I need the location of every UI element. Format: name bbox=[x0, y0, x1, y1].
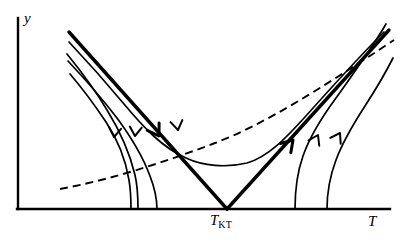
critical-temperature-label: TKT bbox=[210, 213, 232, 230]
critical-temperature-subscript: KT bbox=[218, 219, 232, 230]
y-axis-label: y bbox=[24, 11, 31, 26]
arrow-down-4 bbox=[171, 120, 184, 131]
rg-flow-diagram: y T TKT bbox=[0, 0, 402, 252]
x-axis-label: T bbox=[368, 214, 376, 229]
diagram-canvas bbox=[0, 0, 402, 252]
arrow-down-2 bbox=[129, 127, 142, 137]
separatrix-group bbox=[69, 30, 389, 209]
arrow-up-3 bbox=[330, 130, 345, 144]
flow-lines-group bbox=[67, 24, 393, 209]
arrow-down-1 bbox=[108, 127, 121, 137]
separatrix-right-branch bbox=[227, 30, 389, 209]
flow-line-1 bbox=[69, 32, 384, 166]
arrow-up-2 bbox=[309, 132, 324, 145]
flow-line-3 bbox=[70, 74, 131, 209]
